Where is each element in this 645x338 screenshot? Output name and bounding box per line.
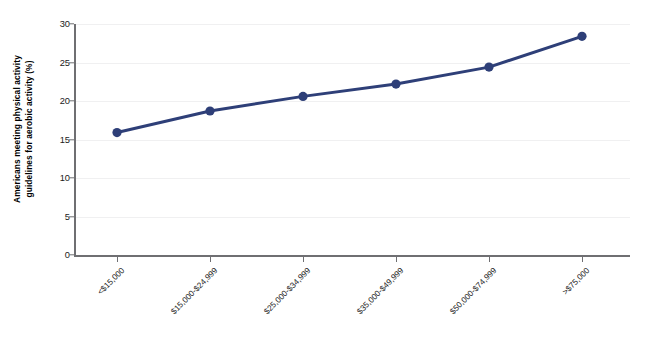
y-axis-tick-labels: 051015202530 [48,0,70,338]
y-axis-line [74,24,76,256]
y-axis-tick-mark [69,100,74,101]
gridline [74,140,630,141]
gridline [74,24,630,25]
x-axis-tick-mark [210,256,211,262]
x-axis-tick-label: >$75,000 [561,266,592,297]
x-axis-tick-label: $50,000-$74,999 [448,266,498,316]
x-axis-tick-label: <$15,000 [96,266,127,297]
y-axis-tick-mark [69,177,74,178]
plot-area [74,24,630,255]
gridline [74,63,630,64]
x-axis-tick-mark [582,256,583,262]
y-axis-tick-mark [69,254,74,255]
y-axis-tick-mark [69,62,74,63]
gridline [74,101,630,102]
gridline [74,217,630,218]
x-axis-tick-mark [489,256,490,262]
y-axis-tick-mark [69,139,74,140]
x-axis-line [74,255,630,257]
y-axis-tick-mark [69,216,74,217]
bottom-caption-strip [330,331,645,338]
y-axis-title: Americans meeting physical activity guid… [0,0,46,258]
x-axis-tick-mark [303,256,304,262]
x-axis-tick-mark [396,256,397,262]
chart-figure: Americans meeting physical activity guid… [0,0,645,338]
y-axis-tick-mark [69,23,74,24]
y-axis-title-line-2: guidelines for aerobic activity (%) [23,55,35,203]
x-axis-tick-label: $15,000-$24,999 [169,266,219,316]
x-axis-tick-label: $35,000-$49,999 [355,266,405,316]
y-axis-title-line-1: Americans meeting physical activity [12,55,24,203]
x-axis-tick-label: $25,000-$34,999 [262,266,312,316]
gridline [74,178,630,179]
x-axis-tick-mark [117,256,118,262]
